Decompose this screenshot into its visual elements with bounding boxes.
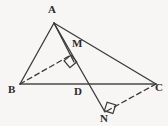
right-angle-mark-M — [64, 55, 77, 68]
vertex-label-D: D — [74, 86, 82, 97]
segment-CN-perpendicular — [105, 84, 156, 112]
geometry-figure: A B C D M N — [0, 0, 168, 126]
geometry-canvas — [0, 0, 168, 126]
vertex-label-N: N — [100, 113, 108, 124]
vertex-label-C: C — [155, 82, 163, 93]
vertex-label-A: A — [48, 4, 56, 15]
vertex-label-B: B — [8, 84, 15, 95]
vertex-label-M: M — [72, 38, 82, 49]
